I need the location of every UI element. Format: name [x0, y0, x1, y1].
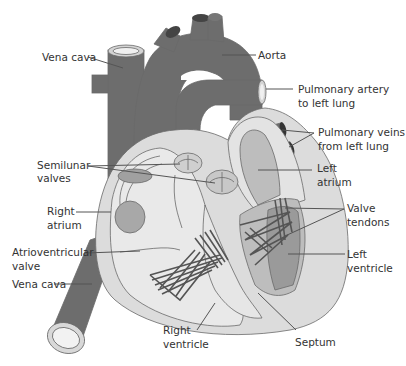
- label-septum: Septum: [295, 336, 336, 348]
- label-atrioventricular-1: Atrioventricular: [12, 246, 94, 258]
- label-semilunar-2: valves: [37, 172, 71, 184]
- label-atrioventricular-2: valve: [12, 260, 40, 272]
- label-left-ventricle-2: ventricle: [347, 262, 393, 274]
- label-right-ventricle-2: ventricle: [163, 338, 209, 350]
- label-right-atrium-1: Right: [47, 205, 75, 217]
- label-semilunar-1: Semilunar: [37, 159, 91, 171]
- label-left-ventricle-1: Left: [347, 248, 367, 260]
- label-valve-tendons-1: Valve: [347, 202, 375, 214]
- label-valve-tendons-2: tendons: [347, 216, 389, 228]
- label-vena-cava-top: Vena cava: [42, 51, 96, 63]
- label-vena-cava-bottom: Vena cava: [12, 278, 66, 290]
- label-pulmonary-veins-1: Pulmonary veins: [318, 126, 405, 138]
- label-right-atrium-2: atrium: [47, 219, 82, 231]
- label-right-ventricle-1: Right: [163, 324, 191, 336]
- heart-diagram: Vena cava Aorta Pulmonary artery to left…: [0, 0, 406, 366]
- right-atrium-opening: [115, 201, 145, 233]
- label-left-atrium-2: atrium: [317, 176, 352, 188]
- label-pulmonary-artery-1: Pulmonary artery: [298, 83, 389, 95]
- label-left-atrium-1: Left: [317, 162, 337, 174]
- label-pulmonary-artery-2: to left lung: [298, 97, 355, 109]
- label-aorta: Aorta: [258, 49, 286, 61]
- label-pulmonary-veins-2: from left lung: [318, 140, 389, 152]
